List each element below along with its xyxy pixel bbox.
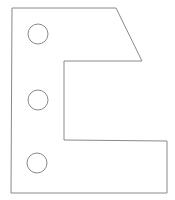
hole-circle-2 (28, 90, 48, 110)
hole-circle-3 (27, 153, 47, 173)
plate-outline (11, 8, 167, 193)
mounting-holes (27, 24, 48, 173)
plate-diagram (0, 0, 175, 200)
hole-circle-1 (28, 24, 48, 44)
